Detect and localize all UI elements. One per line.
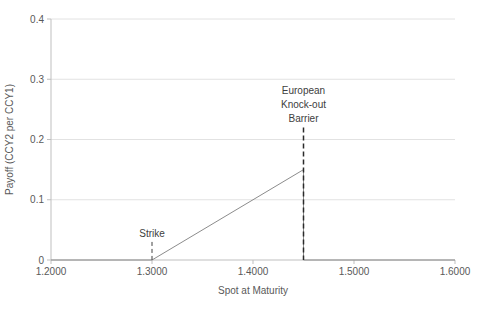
y-tick-label: 0 [38,255,44,266]
x-tick-label: 1.6000 [440,266,471,277]
barrier-label-line: European [282,85,325,96]
barrier-label: EuropeanKnock-outBarrier [281,85,326,124]
y-tick-label: 0.3 [30,74,44,85]
barrier-label-line: Knock-out [281,99,326,110]
x-tick-label: 1.4000 [238,266,269,277]
strike-label-line: Strike [139,228,165,239]
x-tick-label: 1.2000 [36,266,67,277]
gridlines [51,19,455,200]
x-tick-label: 1.3000 [137,266,168,277]
y-tick-label: 0.4 [30,14,44,25]
tick-labels: 1.20001.30001.40001.50001.600000.10.20.3… [30,14,471,277]
chart-container: 1.20001.30001.40001.50001.600000.10.20.3… [0,0,480,309]
x-axis-title: Spot at Maturity [218,285,288,296]
payoff-chart: 1.20001.30001.40001.50001.600000.10.20.3… [0,0,480,309]
payoff-series [51,170,455,260]
barrier-label-line: Barrier [288,113,319,124]
y-tick-label: 0.2 [30,134,44,145]
tick-marks [47,19,455,264]
y-axis-title: Payoff (CCY2 per CCY1) [4,84,15,195]
y-tick-label: 0.1 [30,194,44,205]
series-line-knockout-call-payoff [51,170,455,260]
strike-label: Strike [139,228,165,239]
x-tick-label: 1.5000 [339,266,370,277]
